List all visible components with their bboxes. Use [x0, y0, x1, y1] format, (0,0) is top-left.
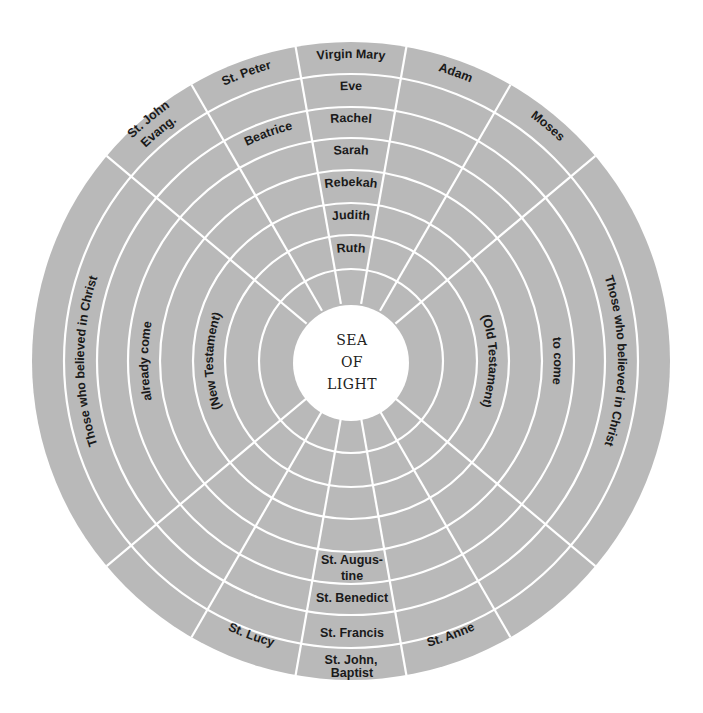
center-label-line-2: OF [341, 354, 363, 370]
label-st-francis: St. Francis [320, 626, 384, 640]
celestial-rose-diagram: SEA OF LIGHT Virgin Mary Eve Rachel Sara… [0, 0, 703, 713]
label-st-benedict: St. Benedict [316, 591, 389, 605]
label-st-augustine-line-2: tine [341, 569, 363, 583]
label-sarah: Sarah [333, 143, 369, 158]
label-st-john-baptist-line-2: Baptist [331, 666, 374, 680]
label-rachel: Rachel [330, 111, 372, 126]
label-virgin-mary: Virgin Mary [316, 47, 386, 63]
label-eve: Eve [340, 79, 363, 93]
center-label-line-3: LIGHT [327, 376, 377, 392]
label-st-john-baptist-line-1: St. John, [325, 653, 378, 667]
label-st-augustine-line-1: St. Augus- [321, 553, 383, 567]
label-ruth: Ruth [336, 241, 366, 256]
center-label-line-1: SEA [336, 332, 368, 348]
label-rebekah: Rebekah [324, 175, 379, 191]
label-judith: Judith [331, 208, 371, 223]
